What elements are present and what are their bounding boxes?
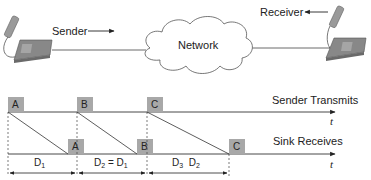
delay-d1-label: D1 [34,157,45,169]
svg-text:C: C [233,141,240,152]
sender-track-label: Sender Transmits [272,94,359,106]
receiver-phone-icon [326,5,366,61]
delay-d2-label: D2 = D1 [94,157,128,169]
sender-label: Sender [52,25,88,37]
received-packet-c: C [229,139,245,154]
sender-time-axis-label: t [330,115,334,127]
sent-packet-a: A [8,97,24,112]
transit-line-c [147,112,229,154]
svg-text:B: B [81,99,88,110]
sent-packet-c: C [147,97,163,112]
svg-text:B: B [141,141,148,152]
svg-text:A: A [72,141,79,152]
sent-packet-b: B [77,97,93,112]
svg-text:C: C [151,99,158,110]
transit-line-a [8,112,68,154]
received-packet-a: A [68,139,84,154]
sink-time-axis-label: t [330,158,334,170]
network-label: Network [178,39,219,51]
received-packet-b: B [137,139,153,154]
sender-phone-icon [4,15,52,63]
transit-line-b [77,112,137,154]
receiver-label: Receiver [260,6,304,18]
svg-text:A: A [12,99,19,110]
sink-track-label: Sink Receives [273,135,343,147]
delay-d3-label: D3 D2 [172,157,200,169]
